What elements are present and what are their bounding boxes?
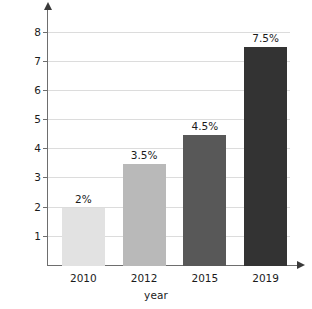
y-tick-mark [43,236,48,237]
x-tick-label: 2015 [192,272,219,284]
y-tick-label: 6 [34,84,41,96]
bar-value-label: 7.5% [252,32,279,44]
bar-value-label: 4.5% [192,120,219,132]
y-tick-label: 4 [34,142,41,154]
x-tick-label: 2012 [131,272,158,284]
y-tick-mark [43,119,48,120]
y-axis-line [47,8,48,266]
y-tick-label: 2 [34,201,41,213]
y-tick-label: 5 [34,113,41,125]
x-axis-arrow-icon [297,261,305,269]
bar: 2%2010 [62,208,105,266]
bar: 3.5%2012 [123,164,166,266]
x-tick-label: 2010 [70,272,97,284]
y-tick-mark [43,32,48,33]
y-tick-mark [43,207,48,208]
bar-value-label: 2% [75,193,92,205]
y-tick-mark [43,148,48,149]
y-tick-mark [43,61,48,62]
bar: 7.5%2019 [244,47,287,266]
y-tick-label: 7 [34,55,41,67]
y-tick-mark [43,90,48,91]
y-tick-label: 3 [34,171,41,183]
bar: 4.5%2015 [183,135,226,266]
bar-chart: percentage of deposits 12345678 2%20103.… [0,0,312,309]
plot-area: 12345678 2%20103.5%20124.5%20157.5%2019 [47,18,290,266]
y-tick-label: 1 [34,230,41,242]
y-tick-label: 8 [34,26,41,38]
bar-value-label: 3.5% [131,149,158,161]
y-tick-mark [43,177,48,178]
x-tick-label: 2019 [252,272,279,284]
x-axis-title: year [0,289,312,301]
y-axis-arrow-icon [44,2,52,10]
